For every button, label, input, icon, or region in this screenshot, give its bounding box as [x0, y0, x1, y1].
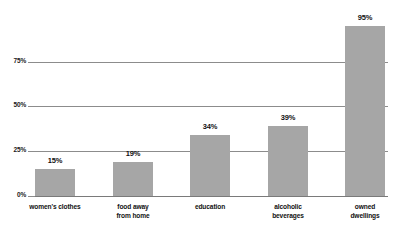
- y-tick-label-75: 75%: [0, 58, 26, 65]
- y-tick-label-0: 0%: [0, 192, 26, 199]
- category-line-1: education: [173, 202, 247, 211]
- category-label-alcoholic-beverages: alcoholic beverages: [251, 202, 325, 220]
- y-tick-75: 75%: [0, 58, 26, 66]
- category-label-owned-dwellings: owned dwellings: [328, 202, 401, 220]
- category-line-2: beverages: [251, 211, 325, 220]
- y-tick-50: 50%: [0, 102, 26, 110]
- category-label-food-away-from-home: food away from home: [96, 202, 170, 220]
- bar-education: [190, 135, 230, 196]
- tick-stub-75: [28, 62, 35, 63]
- bar-value-womens-clothes: 15%: [35, 157, 75, 165]
- axis-baseline: [35, 196, 388, 197]
- bar-womens-clothes: [35, 169, 75, 196]
- category-label-education: education: [173, 202, 247, 211]
- category-line-1: women's clothes: [18, 202, 92, 211]
- y-tick-label-25: 25%: [0, 147, 26, 154]
- bar-alcoholic-beverages: [268, 126, 308, 196]
- y-tick-0: 0%: [0, 192, 26, 200]
- category-line-1: owned: [328, 202, 401, 211]
- category-label-womens-clothes: women's clothes: [18, 202, 92, 211]
- gridline-50: [35, 106, 388, 107]
- category-line-1: alcoholic: [251, 202, 325, 211]
- plot-area: 75% 50% 25% 0% 15% 19% 34% 39% 95% women: [0, 0, 401, 242]
- y-tick-25: 25%: [0, 147, 26, 155]
- category-line-1: food away: [96, 202, 170, 211]
- tick-stub-25: [28, 151, 35, 152]
- bar-value-alcoholic-beverages: 39%: [268, 114, 308, 122]
- gridline-75: [35, 62, 388, 63]
- tick-stub-50: [28, 106, 35, 107]
- category-line-2: from home: [96, 211, 170, 220]
- bar-value-food-away-from-home: 19%: [113, 150, 153, 158]
- bar-value-education: 34%: [190, 123, 230, 131]
- bar-chart: 75% 50% 25% 0% 15% 19% 34% 39% 95% women: [0, 0, 401, 242]
- bar-food-away-from-home: [113, 162, 153, 196]
- y-tick-label-50: 50%: [0, 102, 26, 109]
- tick-stub-0: [28, 196, 35, 197]
- bar-value-owned-dwellings: 95%: [345, 14, 385, 22]
- category-line-2: dwellings: [328, 211, 401, 220]
- bar-owned-dwellings: [345, 26, 385, 196]
